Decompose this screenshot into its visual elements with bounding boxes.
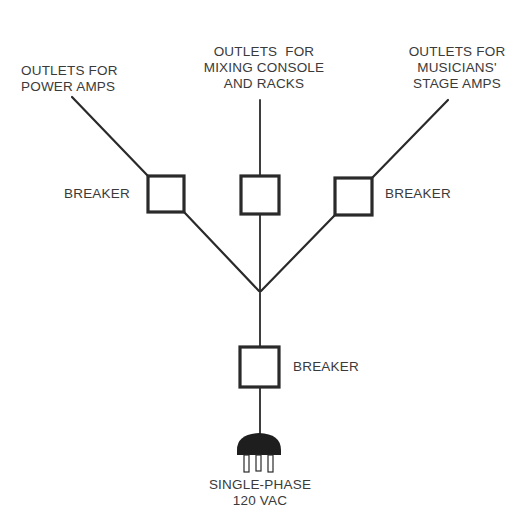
outlet-label-line: OUTLETS FOR xyxy=(409,44,506,60)
wire-left-lower xyxy=(184,212,259,291)
wire-right-lower xyxy=(261,215,335,291)
outlet-label-line: STAGE AMPS xyxy=(409,76,506,92)
outlet-label-line: AND RACKS xyxy=(204,76,325,92)
outlet-label-line: OUTLETS FOR xyxy=(204,44,325,60)
outlet-label-line: OUTLETS FOR xyxy=(21,63,118,79)
outlet-label-stage-amps: OUTLETS FOR MUSICIANS' STAGE AMPS xyxy=(409,44,506,92)
breaker-main-label: BREAKER xyxy=(293,359,359,375)
outlet-label-mixing-console: OUTLETS FOR MIXING CONSOLE AND RACKS xyxy=(204,44,325,92)
wire-left-upper xyxy=(72,97,148,176)
breaker-main-box xyxy=(240,347,279,387)
wire-right-upper xyxy=(372,100,448,178)
source-label-line: 120 VAC xyxy=(209,493,311,509)
power-source-label: SINGLE-PHASE 120 VAC xyxy=(209,477,311,509)
breaker-left-box xyxy=(148,176,184,212)
outlet-label-power-amps: OUTLETS FOR POWER AMPS xyxy=(21,63,118,95)
source-label-line: SINGLE-PHASE xyxy=(209,477,311,493)
outlet-label-line: MIXING CONSOLE xyxy=(204,60,325,76)
breaker-right-box xyxy=(335,178,372,215)
breaker-left-label: BREAKER xyxy=(64,186,130,202)
outlet-label-line: MUSICIANS' xyxy=(409,60,506,76)
outlet-label-line: POWER AMPS xyxy=(21,79,118,95)
breaker-right-label: BREAKER xyxy=(385,186,451,202)
breaker-center-box xyxy=(241,176,279,214)
power-plug-icon xyxy=(237,433,281,472)
